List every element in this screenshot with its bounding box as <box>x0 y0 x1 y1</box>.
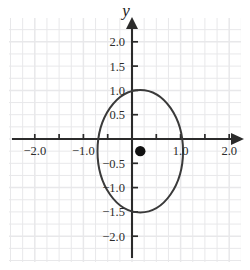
tick-label: 2.0 <box>109 35 125 49</box>
tick-label: −2.0 <box>23 144 46 158</box>
center-point-marker <box>135 146 145 156</box>
tick-label: −1.5 <box>102 205 125 219</box>
figure-background <box>0 0 250 270</box>
tick-label: −2.0 <box>102 230 125 244</box>
graph-figure: −2.0−1.01.02.02.01.51.00.5−0.5−1.0−1.5−2… <box>0 0 250 270</box>
tick-label: 1.5 <box>109 60 125 74</box>
y-axis-label: y <box>120 1 130 20</box>
tick-label: −1.0 <box>72 144 95 158</box>
plotted-point <box>135 146 145 156</box>
tick-label: 2.0 <box>221 144 237 158</box>
tick-label: −1.0 <box>102 181 125 195</box>
tick-label: −0.5 <box>102 157 125 171</box>
coordinate-plane-svg: −2.0−1.01.02.02.01.51.00.5−0.5−1.0−1.5−2… <box>0 0 250 270</box>
tick-label: 1.0 <box>173 144 189 158</box>
tick-label: 0.5 <box>109 108 125 122</box>
tick-label: 1.0 <box>109 84 125 98</box>
